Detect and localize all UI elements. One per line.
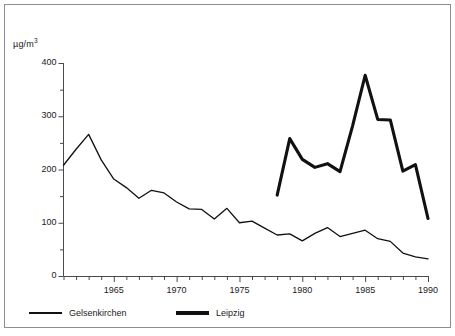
y-tick-label: 400 [31, 57, 57, 67]
y-tick-label: 300 [31, 110, 57, 120]
y-tick-label: 200 [31, 164, 57, 174]
legend-label-leipzig: Leipzig [216, 308, 245, 318]
x-tick-label: 1980 [285, 285, 319, 295]
chart-legend: Gelsenkirchen Leipzig [0, 306, 455, 326]
legend-line-icon-leipzig [176, 311, 209, 314]
y-tick-label: 0 [31, 270, 57, 280]
series-line-gelsenkirchen [64, 134, 429, 259]
x-tick-label: 1965 [97, 285, 131, 295]
x-tick-label: 1970 [160, 285, 194, 295]
y-tick-label: 100 [31, 217, 57, 227]
legend-item-leipzig: Leipzig [176, 306, 245, 320]
y-axis-ticks [59, 64, 64, 277]
data-series-layer [64, 75, 429, 259]
legend-label-gelsenkirchen: Gelsenkirchen [69, 308, 127, 318]
x-tick-label: 1985 [348, 285, 382, 295]
series-line-leipzig [277, 75, 428, 218]
legend-item-gelsenkirchen: Gelsenkirchen [29, 306, 127, 320]
axis-lines [64, 63, 429, 277]
chart-figure: µg/m3 0100200300400 19651970197519801985… [0, 0, 455, 336]
x-tick-label: 1990 [411, 285, 445, 295]
legend-line-icon-gelsenkirchen [29, 312, 62, 313]
x-tick-label: 1975 [222, 285, 256, 295]
